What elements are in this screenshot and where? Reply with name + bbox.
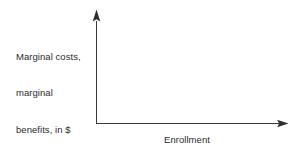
y-axis-label: Marginal costs, marginal benefits, in $: [16, 26, 81, 156]
y-axis-label-line-1: Marginal costs,: [16, 51, 81, 63]
y-axis-label-line-2: marginal: [16, 87, 81, 99]
x-axis-label: Enrollment: [96, 134, 278, 146]
y-axis-arrowhead-icon: [93, 10, 101, 22]
chart-figure: Marginal costs, marginal benefits, in $ …: [0, 0, 297, 156]
y-axis-label-line-3: benefits, in $: [16, 124, 81, 136]
